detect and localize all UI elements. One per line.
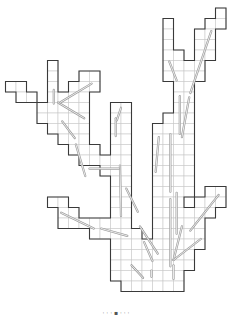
grid-cell xyxy=(174,61,185,72)
grid-cell xyxy=(184,176,195,187)
grid-cell xyxy=(121,197,132,208)
grid-cell xyxy=(163,40,174,51)
grid-cell xyxy=(174,155,185,166)
grid-cell xyxy=(6,82,17,93)
grid-cell xyxy=(132,239,143,250)
grid-cell xyxy=(205,50,216,61)
grid-cell xyxy=(163,19,174,30)
grid-cell xyxy=(90,229,101,240)
grid-cell xyxy=(163,29,174,40)
grid-cell xyxy=(216,19,227,30)
grid-cell xyxy=(90,155,101,166)
grid-cell xyxy=(121,113,132,124)
grid-cell xyxy=(111,218,122,229)
grid-cell xyxy=(195,197,206,208)
grid-cell xyxy=(184,166,195,177)
grid-cell xyxy=(184,134,195,145)
grid-cell xyxy=(184,61,195,72)
grid-cell xyxy=(37,103,48,114)
grid-cell xyxy=(163,145,174,156)
grid-cell xyxy=(100,218,111,229)
grid-cell xyxy=(184,71,195,82)
grid-cell xyxy=(153,218,164,229)
caption-text: · · · ▪ · · · xyxy=(103,309,130,316)
grid-cell xyxy=(174,176,185,187)
grid-cell xyxy=(121,124,132,135)
grid-cell xyxy=(90,71,101,82)
grid-cell xyxy=(153,187,164,198)
grid-cell xyxy=(121,208,132,219)
grid-cell xyxy=(163,208,174,219)
grid-cell xyxy=(58,218,69,229)
grid-cell xyxy=(142,260,153,271)
grid-cell xyxy=(121,260,132,271)
grid-cell xyxy=(163,166,174,177)
grid-cell xyxy=(121,166,132,177)
grid-cell xyxy=(132,250,143,261)
grid-cell xyxy=(111,260,122,271)
grid-cell xyxy=(163,197,174,208)
grid-cell xyxy=(142,281,153,292)
grid-cell xyxy=(163,250,174,261)
grid-cell xyxy=(163,50,174,61)
grid-cell xyxy=(79,134,90,145)
grid-cell xyxy=(184,124,195,135)
grid-cell xyxy=(16,82,27,93)
grid-cell xyxy=(16,92,27,103)
grid-cell xyxy=(174,166,185,177)
grid-cell xyxy=(48,113,59,124)
grid-cell xyxy=(48,71,59,82)
grid-cell xyxy=(79,71,90,82)
grid-cell xyxy=(121,103,132,114)
grid-cell xyxy=(163,124,174,135)
grid-cell xyxy=(111,239,122,250)
grid-cell xyxy=(111,271,122,282)
grid-cell xyxy=(90,145,101,156)
grid-cell xyxy=(163,281,174,292)
grid-cell xyxy=(163,176,174,187)
grid-cell xyxy=(132,260,143,271)
grid-cell xyxy=(174,145,185,156)
grid-cell xyxy=(27,92,38,103)
grid-cell xyxy=(163,260,174,271)
grid-cell xyxy=(184,229,195,240)
path-arrow xyxy=(120,166,121,216)
grid-cell xyxy=(153,281,164,292)
grid-cell xyxy=(48,61,59,72)
grid-cell xyxy=(184,187,195,198)
grid-tree-diagram: · · · ▪ · · · xyxy=(0,0,233,319)
grid-cell xyxy=(121,218,132,229)
grid-cell xyxy=(174,208,185,219)
grid-cell xyxy=(121,271,132,282)
grid-cell xyxy=(79,145,90,156)
grid-cell xyxy=(174,197,185,208)
grid-cell xyxy=(163,113,174,124)
grid-cell xyxy=(111,197,122,208)
grid-cell xyxy=(174,271,185,282)
grid-cell xyxy=(163,71,174,82)
grid-cell xyxy=(58,134,69,145)
grid-cell xyxy=(174,281,185,292)
grid-cell xyxy=(184,145,195,156)
grid-cell xyxy=(111,145,122,156)
grid-cell xyxy=(153,271,164,282)
grid-cell xyxy=(153,124,164,135)
grid-cell xyxy=(184,260,195,271)
grid-cell xyxy=(174,82,185,93)
grid-cell xyxy=(121,239,132,250)
grid-cell xyxy=(205,19,216,30)
grid-cell xyxy=(153,229,164,240)
grid-cell xyxy=(121,145,132,156)
grid-cell xyxy=(121,155,132,166)
grid-cell xyxy=(216,8,227,19)
grid-cell xyxy=(121,134,132,145)
grid-cell xyxy=(48,103,59,114)
grid-cell xyxy=(163,134,174,145)
grid-cell xyxy=(132,229,143,240)
grid-cell xyxy=(111,250,122,261)
grid-cell xyxy=(48,124,59,135)
grid-cell xyxy=(153,197,164,208)
grid-cell xyxy=(153,260,164,271)
grid-cell xyxy=(174,187,185,198)
grid-cell xyxy=(184,155,195,166)
